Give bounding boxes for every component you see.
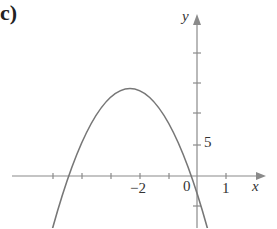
y-axis-label: y xyxy=(182,8,189,25)
y-axis-arrow-icon xyxy=(193,14,201,25)
parabola-curve xyxy=(51,89,209,229)
origin-label: 0 xyxy=(183,178,191,195)
x-tick-label-1: 1 xyxy=(222,180,230,197)
x-tick-label-neg2: −2 xyxy=(130,180,146,197)
x-axis xyxy=(12,173,258,179)
x-axis-label: x xyxy=(252,178,259,195)
y-axis xyxy=(193,22,201,228)
y-tick-label-5: 5 xyxy=(204,134,212,151)
